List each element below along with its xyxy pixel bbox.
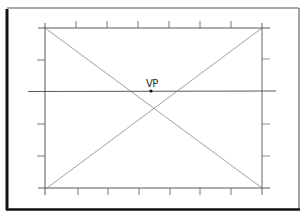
vanishing-point: VP [146, 78, 158, 93]
left-ticks [37, 60, 45, 156]
bottom-ticks [78, 188, 231, 195]
perspective-diagram: VP [0, 0, 307, 217]
top-ticks [76, 21, 231, 28]
orthogonal-lines [45, 28, 262, 188]
vanishing-point-label: VP [146, 78, 158, 89]
vanishing-point-dot [149, 89, 152, 92]
right-ticks [262, 59, 270, 156]
